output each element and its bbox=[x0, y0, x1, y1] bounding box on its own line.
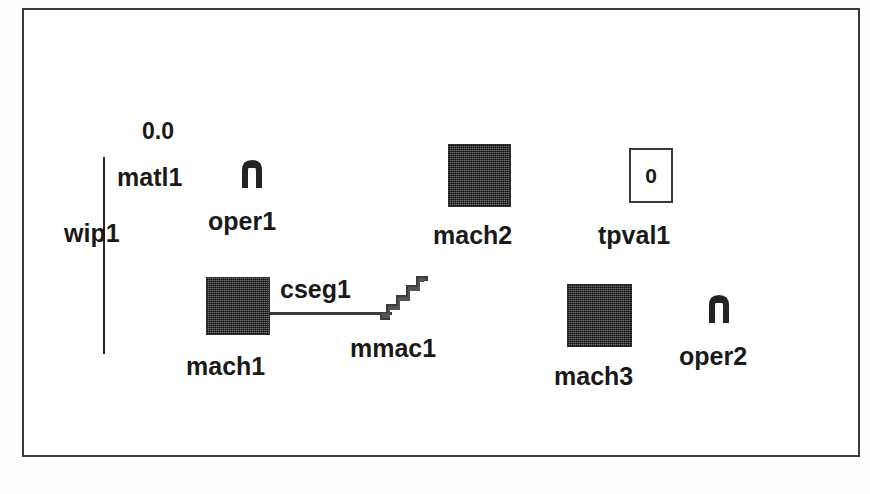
cseg1-connector-line[interactable] bbox=[270, 312, 392, 315]
wip1-buffer-line[interactable] bbox=[103, 157, 105, 354]
model-window-frame: 0.0 wip1 matl1 oper1 mach2 0 tpval1 mach… bbox=[22, 8, 860, 457]
mach2-machine-square[interactable] bbox=[448, 144, 511, 207]
tpval1-value-box[interactable]: 0 bbox=[629, 148, 673, 203]
mach1-label: mach1 bbox=[186, 354, 265, 379]
mach2-label: mach2 bbox=[433, 223, 512, 248]
operator-arch-icon[interactable] bbox=[703, 291, 735, 323]
wip1-label: wip1 bbox=[64, 221, 120, 246]
mach3-machine-square[interactable] bbox=[567, 284, 632, 347]
wip1-value-label: 0.0 bbox=[142, 120, 174, 143]
operator-arch-icon[interactable] bbox=[236, 156, 268, 188]
cseg1-label: cseg1 bbox=[280, 277, 351, 302]
matl1-label[interactable]: matl1 bbox=[117, 165, 182, 190]
mach3-label: mach3 bbox=[554, 364, 633, 389]
tpval1-value-text: 0 bbox=[645, 164, 657, 188]
oper2-label: oper2 bbox=[679, 344, 747, 369]
mach1-machine-square[interactable] bbox=[206, 277, 270, 335]
mmac1-label: mmac1 bbox=[350, 336, 436, 361]
diagram-canvas: 0.0 wip1 matl1 oper1 mach2 0 tpval1 mach… bbox=[0, 0, 870, 494]
oper1-label: oper1 bbox=[208, 209, 276, 234]
staircase-icon[interactable] bbox=[380, 276, 428, 320]
tpval1-label: tpval1 bbox=[598, 223, 670, 248]
